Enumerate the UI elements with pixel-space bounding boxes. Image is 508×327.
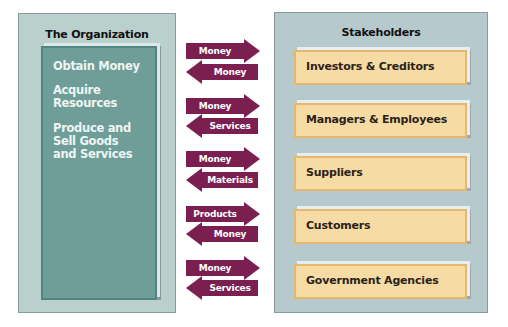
stakeholder-investors-creditors: Investors & Creditors [294, 50, 467, 85]
arrow-label: Products [186, 206, 244, 222]
arrow-label: Money [186, 98, 244, 114]
activity-obtain-money: Obtain Money [53, 60, 140, 73]
arrow-label: Money [186, 43, 244, 59]
stakeholder-customers: Customers [294, 209, 467, 244]
arrow-label: Money [202, 226, 258, 242]
arrow-label: Materials [202, 172, 258, 188]
arrow-label: Services [202, 118, 258, 134]
stakeholder-label: Investors & Creditors [306, 60, 434, 73]
arrow-label: Money [186, 151, 244, 167]
stakeholder-label: Suppliers [306, 166, 363, 179]
organization-title: The Organization [19, 28, 175, 41]
activity-acquire-resources: Acquire Resources [53, 84, 117, 110]
arrow-label: Services [202, 280, 258, 296]
stakeholder-label: Customers [306, 219, 370, 232]
stakeholder-label: Managers & Employees [306, 113, 447, 126]
organization-activities-box: Obtain Money Acquire Resources Produce a… [41, 46, 157, 300]
organization-panel: The Organization Obtain Money Acquire Re… [18, 13, 176, 313]
stakeholder-suppliers: Suppliers [294, 156, 467, 191]
arrow-label: Money [202, 64, 258, 80]
stakeholder-label: Government Agencies [306, 274, 439, 287]
activity-produce-sell: Produce and Sell Goods and Services [53, 122, 132, 161]
stakeholders-title: Stakeholders [275, 26, 487, 39]
stakeholders-panel: Stakeholders Investors & Creditors Manag… [274, 12, 488, 313]
arrow-label: Money [186, 260, 244, 276]
stakeholder-government-agencies: Government Agencies [294, 264, 467, 299]
stakeholder-managers-employees: Managers & Employees [294, 103, 467, 138]
